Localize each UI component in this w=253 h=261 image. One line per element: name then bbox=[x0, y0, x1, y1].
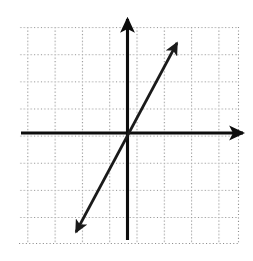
figure-root: 0. bbox=[0, 0, 253, 261]
coordinate-plane-graph bbox=[0, 0, 253, 261]
